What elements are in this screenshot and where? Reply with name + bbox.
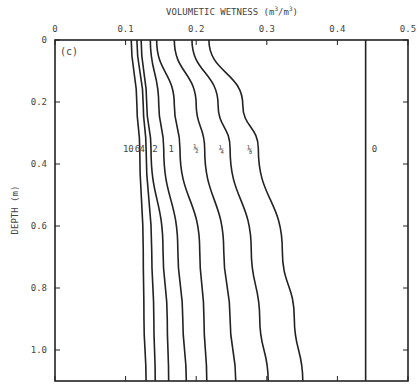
y-tick-label: 0.4 [31, 159, 47, 169]
curve-label: ½ [193, 144, 198, 154]
x-axis-ticks: 00.10.20.30.40.5 [52, 24, 416, 381]
curve-label: 4 [140, 144, 145, 154]
curve-4 [141, 40, 169, 381]
x-tick-label: 0.5 [400, 24, 416, 34]
curve-1-8 [209, 40, 303, 381]
x-tick-label: 0.2 [188, 24, 204, 34]
x-axis-title: VOLUMETIC WETNESS (m3/m3) [166, 5, 298, 17]
curve-label: 0 [372, 144, 377, 154]
y-axis-title: DEPTH (m) [10, 186, 20, 235]
plot-frame [55, 40, 408, 381]
data-series [131, 40, 365, 381]
panel-label: (c) [60, 46, 78, 57]
curve-label: 10 [123, 144, 134, 154]
y-tick-label: 1.0 [31, 345, 47, 355]
curve-label: ⅛ [247, 144, 252, 154]
curve-2 [150, 40, 186, 381]
chart: VOLUMETIC WETNESS (m3/m3) 00.10.20.30.40… [0, 0, 419, 390]
curve-label: ¼ [219, 144, 224, 154]
x-tick-label: 0.3 [259, 24, 275, 34]
curve-labels: 106421½¼⅛0 [123, 144, 377, 154]
curve-1 [157, 40, 207, 381]
curve-label: 1 [169, 144, 174, 154]
y-tick-label: 0.8 [31, 283, 47, 293]
curve-10 [131, 40, 146, 381]
y-tick-label: 0 [42, 35, 47, 45]
x-tick-label: 0.4 [329, 24, 345, 34]
x-tick-label: 0 [52, 24, 57, 34]
y-axis-ticks: 00.20.40.60.81.0 [31, 35, 408, 355]
x-tick-label: 0.1 [117, 24, 133, 34]
y-tick-label: 0.6 [31, 221, 47, 231]
curve-label: 2 [152, 144, 157, 154]
y-tick-label: 0.2 [31, 97, 47, 107]
